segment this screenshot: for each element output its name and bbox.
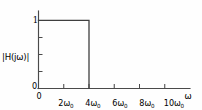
magnitude-response-figure: 1 0 |H(jω)| 0 2ω0 4ω0 6ω0 8ω0 10ω0 ω [0, 0, 202, 110]
x-tick-label-0: 0 [34, 91, 44, 101]
y-origin-label: 0 [28, 81, 37, 91]
x-tick-label-2w0: 2ω0 [56, 91, 76, 110]
x-tick-label-8w0-main: 8ω [139, 98, 151, 108]
x-tick-label-6w0-sub: 0 [124, 103, 128, 109]
x-tick-label-8w0: 8ω0 [137, 91, 157, 110]
x-tick-label-4w0-sub: 0 [97, 103, 101, 109]
x-axis-label: ω [181, 91, 195, 101]
x-tick-label-4w0: 4ω0 [83, 91, 103, 110]
x-tick-label-4w0-main: 4ω [85, 98, 97, 108]
magnitude-response-curve [39, 20, 90, 88]
x-tick-label-10w0-sub: 0 [181, 103, 185, 109]
x-tick-label-2w0-main: 2ω [58, 98, 70, 108]
y-axis-label: |H(jω)| [2, 52, 34, 62]
x-tick-label-8w0-sub: 0 [151, 103, 155, 109]
x-tick-label-6w0: 6ω0 [110, 91, 130, 110]
x-tick-label-2w0-sub: 0 [70, 103, 74, 109]
x-tick-label-10w0-main: 10ω [164, 98, 181, 108]
x-tick-label-6w0-main: 6ω [112, 98, 124, 108]
y-tick-label-one: 1 [29, 15, 38, 25]
